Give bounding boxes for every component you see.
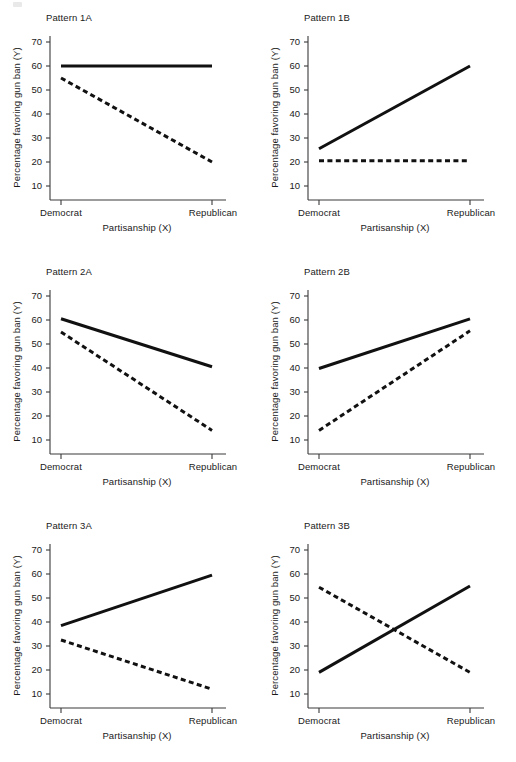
y-tick-label: 70 xyxy=(289,36,300,47)
y-tick-label: 30 xyxy=(31,386,42,397)
y-tick-label: 10 xyxy=(31,434,42,445)
y-tick-label: 10 xyxy=(31,688,42,699)
series-line-dashed xyxy=(61,640,212,689)
y-tick-label: 10 xyxy=(289,434,300,445)
y-tick-label: 20 xyxy=(289,664,300,675)
y-tick-label: 70 xyxy=(31,290,42,301)
y-tick-label: 60 xyxy=(31,568,42,579)
y-tick-label: 60 xyxy=(31,314,42,325)
series-line-solid xyxy=(61,319,212,367)
y-tick-label: 40 xyxy=(289,362,300,373)
y-tick-label: 70 xyxy=(31,544,42,555)
y-tick-label: 50 xyxy=(289,592,300,603)
y-tick-label: 10 xyxy=(31,180,42,191)
plot-area: 70605040302010 xyxy=(258,0,516,254)
y-tick-label: 10 xyxy=(289,180,300,191)
y-tick-label: 60 xyxy=(289,568,300,579)
y-tick-label: 20 xyxy=(31,410,42,421)
figure-six-interaction-patterns: Pattern 1APercentage favoring gun ban (Y… xyxy=(0,0,516,762)
y-tick-label: 20 xyxy=(31,664,42,675)
y-tick-label: 20 xyxy=(31,156,42,167)
series-line-dashed xyxy=(319,331,470,431)
panel-grid: Pattern 1APercentage favoring gun ban (Y… xyxy=(0,0,516,762)
chart-panel: Pattern 1BPercentage favoring gun ban (Y… xyxy=(258,0,516,254)
y-tick-label: 40 xyxy=(289,108,300,119)
chart-panel: Pattern 2BPercentage favoring gun ban (Y… xyxy=(258,254,516,508)
plot-area: 70605040302010 xyxy=(258,508,516,762)
y-tick-label: 20 xyxy=(289,410,300,421)
series-line-solid xyxy=(61,575,212,625)
plot-area: 70605040302010 xyxy=(0,254,258,508)
y-tick-label: 50 xyxy=(31,338,42,349)
y-tick-label: 70 xyxy=(289,290,300,301)
chart-panel: Pattern 3BPercentage favoring gun ban (Y… xyxy=(258,508,516,762)
plot-area: 70605040302010 xyxy=(0,508,258,762)
y-tick-label: 30 xyxy=(289,640,300,651)
y-tick-label: 40 xyxy=(289,616,300,627)
y-tick-label: 50 xyxy=(289,84,300,95)
y-tick-label: 30 xyxy=(31,640,42,651)
series-line-solid xyxy=(319,66,470,149)
y-tick-label: 60 xyxy=(289,314,300,325)
y-tick-label: 50 xyxy=(31,84,42,95)
y-tick-label: 10 xyxy=(289,688,300,699)
series-line-dashed xyxy=(61,78,212,162)
chart-panel: Pattern 2APercentage favoring gun ban (Y… xyxy=(0,254,258,508)
chart-panel: Pattern 3APercentage favoring gun ban (Y… xyxy=(0,508,258,762)
y-tick-label: 30 xyxy=(289,132,300,143)
y-tick-label: 40 xyxy=(31,616,42,627)
y-tick-label: 50 xyxy=(289,338,300,349)
y-tick-label: 70 xyxy=(31,36,42,47)
chart-panel: Pattern 1APercentage favoring gun ban (Y… xyxy=(0,0,258,254)
y-tick-label: 70 xyxy=(289,544,300,555)
plot-area: 70605040302010 xyxy=(258,254,516,508)
y-tick-label: 20 xyxy=(289,156,300,167)
y-tick-label: 40 xyxy=(31,108,42,119)
y-tick-label: 30 xyxy=(31,132,42,143)
series-line-dashed xyxy=(61,332,212,430)
y-tick-label: 60 xyxy=(289,60,300,71)
plot-area: 70605040302010 xyxy=(0,0,258,254)
series-line-solid xyxy=(319,319,470,369)
y-tick-label: 40 xyxy=(31,362,42,373)
y-tick-label: 50 xyxy=(31,592,42,603)
y-tick-label: 30 xyxy=(289,386,300,397)
y-tick-label: 60 xyxy=(31,60,42,71)
